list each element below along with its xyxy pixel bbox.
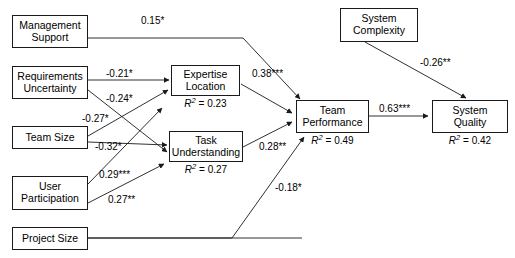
edge-expertise-location-to-team-performance — [241, 84, 292, 113]
edge-label-requirements-uncertainty-to-expertise-location: -0.21* — [106, 68, 133, 79]
r2-symbol-team-performance: R — [311, 135, 318, 146]
node-project-size[interactable]: Project Size — [12, 227, 88, 250]
edge-label-team-performance-to-system-quality: 0.63*** — [379, 103, 410, 114]
node-requirements-uncertainty[interactable]: Requirements Uncertainty — [12, 66, 88, 99]
r2-value-system-quality: 0.42 — [472, 135, 491, 146]
node-label-project-size: Project Size — [20, 233, 80, 245]
edge-label-team-size-to-task-understanding: -0.32* — [95, 141, 122, 152]
node-label-management-support: Management Support — [17, 20, 82, 44]
node-label-requirements-uncertainty: Requirements Uncertainty — [15, 71, 84, 95]
node-system-complexity[interactable]: System Complexity — [340, 8, 418, 42]
node-expertise-location[interactable]: Expertise Location — [171, 65, 240, 96]
r2-value-team-performance: 0.49 — [334, 135, 353, 146]
node-label-expertise-location: Expertise Location — [182, 69, 230, 93]
r2-equals-expertise-location: = — [196, 98, 207, 109]
r2-expertise-location: R2 = 0.23 — [171, 98, 240, 109]
edge-label-user-participation-to-task-understanding: 0.27** — [108, 194, 135, 205]
edge-label-task-understanding-to-team-performance: 0.28** — [259, 141, 286, 152]
edge-label-expertise-location-to-team-performance: 0.38*** — [252, 68, 283, 79]
node-system-quality[interactable]: System Quality — [432, 100, 508, 133]
r2-task-understanding: R2 = 0.27 — [169, 164, 243, 175]
r2-team-performance: R2 = 0.49 — [296, 135, 369, 146]
edge-system-complexity-to-system-quality — [365, 42, 466, 98]
edge-label-system-complexity-to-system-quality: -0.26** — [420, 57, 451, 68]
r2-system-quality: R2 = 0.42 — [432, 135, 508, 146]
node-label-task-understanding: Task Understanding — [170, 135, 242, 159]
node-label-team-size: Team Size — [23, 132, 76, 144]
path-diagram: Management Support Requirements Uncertai… — [0, 0, 515, 258]
node-label-team-performance: Team Performance — [300, 105, 364, 129]
node-label-user-participation: User Participation — [19, 181, 81, 205]
edge-label-requirements-uncertainty-to-task-understanding: -0.24* — [106, 93, 133, 104]
r2-equals-system-quality: = — [460, 135, 471, 146]
edge-label-project-size-to-team-performance: -0.18* — [275, 182, 302, 193]
node-task-understanding[interactable]: Task Understanding — [169, 131, 243, 162]
node-team-performance[interactable]: Team Performance — [296, 100, 369, 133]
r2-value-task-understanding: 0.27 — [208, 164, 227, 175]
r2-symbol-task-understanding: R — [185, 164, 192, 175]
r2-value-expertise-location: 0.23 — [207, 98, 226, 109]
edge-label-management-support-to-team-performance: 0.15* — [141, 15, 164, 26]
r2-symbol-system-quality: R — [449, 135, 456, 146]
r2-equals-task-understanding: = — [196, 164, 207, 175]
node-label-system-quality: System Quality — [450, 105, 489, 129]
node-team-size[interactable]: Team Size — [12, 126, 88, 149]
r2-equals-team-performance: = — [323, 135, 334, 146]
node-user-participation[interactable]: User Participation — [12, 176, 88, 210]
node-label-system-complexity: System Complexity — [351, 13, 407, 37]
r2-symbol-expertise-location: R — [184, 98, 191, 109]
edge-label-team-size-to-expertise-location: -0.27* — [82, 113, 109, 124]
node-management-support[interactable]: Management Support — [12, 15, 88, 48]
edge-label-user-participation-to-expertise-location: 0.29*** — [99, 169, 130, 180]
